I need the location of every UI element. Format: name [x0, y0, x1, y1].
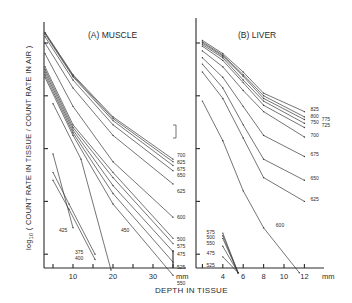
data-point [243, 124, 244, 125]
data-point [202, 42, 203, 43]
series-label-600: 600 [177, 214, 186, 220]
data-point [52, 172, 53, 173]
data-point [304, 111, 305, 112]
data-point [222, 238, 223, 239]
series-label-725: 725 [322, 122, 331, 128]
x-tick-label: 30 [149, 272, 157, 281]
series-line-475 [45, 72, 173, 252]
series-line-375 [53, 172, 95, 254]
data-point [112, 161, 113, 162]
data-point [72, 79, 73, 80]
data-point [112, 172, 113, 173]
x-tick-label: 20 [109, 272, 117, 281]
data-point [72, 227, 73, 228]
data-point [202, 50, 203, 51]
series-label-575: 575 [177, 243, 186, 249]
data-point [44, 74, 45, 75]
panel-liver: 4681012 82580077575072570067565062560057… [196, 18, 335, 281]
data-point [202, 40, 203, 41]
series-line-650 [45, 37, 173, 171]
data-point [304, 116, 305, 117]
data-point [202, 44, 203, 45]
data-point [304, 180, 305, 181]
data-point [202, 100, 203, 101]
series-label-375: 375 [75, 249, 84, 255]
series-line-600 [202, 101, 299, 273]
series-label-475: 475 [206, 250, 215, 256]
data-point [72, 127, 73, 128]
data-point [222, 77, 223, 78]
data-point [112, 116, 113, 117]
data-point [222, 56, 223, 57]
y-ticks-liver [196, 43, 200, 254]
data-point [172, 161, 173, 162]
series-line-625 [45, 43, 173, 184]
data-point [52, 103, 53, 104]
data-point [243, 190, 244, 191]
data-point [112, 135, 113, 136]
data-point [112, 193, 113, 194]
series-label-425: 425 [59, 227, 68, 233]
chart-figure: 102030 700825675650625600500575475525550… [0, 0, 352, 303]
data-point [52, 153, 53, 154]
data-point [222, 98, 223, 99]
data-point [72, 106, 73, 107]
data-point [222, 232, 223, 233]
data-point [110, 269, 111, 270]
x-unit-liver: mm [322, 272, 335, 281]
data-point [263, 100, 264, 101]
data-point [243, 90, 244, 91]
data-point [202, 63, 203, 64]
data-point [304, 123, 305, 124]
series-line-625 [202, 72, 304, 201]
data-point [263, 92, 264, 93]
data-point [94, 254, 95, 255]
data-point [263, 227, 264, 228]
data-point [172, 238, 173, 239]
series-label-750: 750 [311, 119, 320, 125]
data-point [94, 259, 95, 260]
data-point [243, 71, 244, 72]
data-point [304, 156, 305, 157]
data-point [44, 36, 45, 37]
series-label-650: 650 [311, 175, 320, 181]
x-ticks-muscle: 102030 [53, 264, 173, 281]
series-labels-muscle: 7008256756506256005005754755255504504253… [59, 152, 186, 286]
x-ticks-liver: 4681012 [202, 264, 308, 281]
data-point [299, 272, 300, 273]
data-point [263, 158, 264, 159]
data-point [222, 87, 223, 88]
x-tick-label: 12 [300, 272, 308, 281]
data-point [72, 87, 73, 88]
data-point [243, 74, 244, 75]
data-point [44, 42, 45, 43]
series-label-550: 550 [206, 240, 215, 246]
series-label-625: 625 [311, 196, 320, 202]
panel-muscle: 102030 700825675650625600500575475525550… [44, 22, 189, 286]
data-point [304, 127, 305, 128]
data-point [112, 203, 113, 204]
data-point [72, 135, 73, 136]
data-point [172, 170, 173, 171]
data-point [222, 140, 223, 141]
series-label-825: 825 [177, 159, 186, 165]
x-tick-label: 8 [262, 272, 266, 281]
data-point [304, 201, 305, 202]
label-bracket [173, 125, 176, 138]
series-line-600 [45, 54, 173, 218]
series-line-650 [202, 64, 304, 180]
data-point [52, 180, 53, 181]
data-point [172, 158, 173, 159]
data-point [44, 77, 45, 78]
data-point [202, 57, 203, 58]
x-axis-label: DEPTH IN TISSUE [155, 286, 228, 295]
data-point [112, 124, 113, 125]
data-point [222, 60, 223, 61]
data-point [202, 71, 203, 72]
data-point [263, 135, 264, 136]
data-point [80, 158, 81, 159]
data-point [263, 111, 264, 112]
data-point [304, 119, 305, 120]
series-label-650: 650 [177, 172, 186, 178]
series-label-675: 675 [177, 166, 186, 172]
